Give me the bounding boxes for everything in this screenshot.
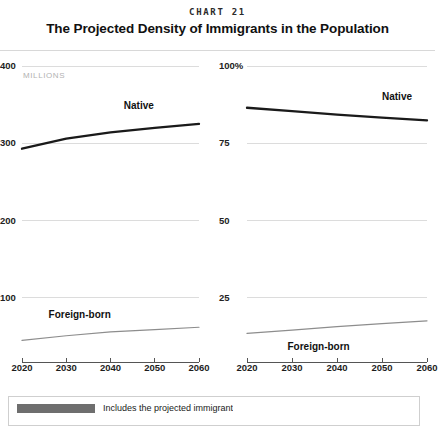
series-label-foreign-born: Foreign-born [49,309,111,320]
x-tick-label: 2030 [281,362,302,373]
x-tick-labels-percent: 20202030204020502060 [219,362,435,380]
legend-box: Includes the projected immigrant [8,396,420,426]
y-tick-label: 75 [219,138,230,148]
y-tick-label: 100% [219,61,243,71]
series-line-foreign-born [22,327,199,340]
chart-number-kicker: CHART 21 [0,6,435,18]
series-line-native [22,124,199,149]
series-label-native: Native [382,91,412,102]
legend-row: Includes the projected immigrant [17,403,411,414]
x-tick-label: 2020 [11,362,32,373]
y-tick-label: 100 [0,293,16,303]
series-label-foreign-born: Foreign-born [288,341,350,352]
x-tick-label: 2030 [56,362,77,373]
series-line-native [247,108,427,121]
legend-swatch [17,404,95,413]
x-tick-label: 2050 [371,362,392,373]
charts-container: MILLIONS 20202030204020502060 1002003004… [0,52,435,392]
chart-panel-millions: MILLIONS 20202030204020502060 1002003004… [0,52,213,392]
gridlines-millions [22,66,199,298]
plot-svg-millions [0,52,213,392]
x-tick-label: 2040 [100,362,121,373]
x-tick-label: 2050 [144,362,165,373]
y-axis-units-label: MILLIONS [23,71,65,80]
x-tick-label: 2060 [416,362,437,373]
y-tick-label: 25 [219,293,230,303]
x-tick-labels-millions: 20202030204020502060 [0,362,213,380]
y-tick-label: 50 [219,216,230,226]
series-label-native: Native [124,100,154,111]
legend-label: Includes the projected immigrant [103,403,233,414]
title-divider [0,50,435,51]
x-tick-label: 2040 [326,362,347,373]
chart-panel-percent: 20202030204020502060 255075100% NativeFo… [219,52,435,392]
plot-area-millions [0,52,213,392]
chart-title: The Projected Density of Immigrants in t… [0,20,435,37]
x-tick-label: 2020 [236,362,257,373]
y-tick-label: 300 [0,138,16,148]
x-tick-label: 2060 [188,362,209,373]
series-line-foreign-born [247,321,427,334]
y-tick-label: 200 [0,216,16,226]
chart-header: CHART 21 The Projected Density of Immigr… [0,0,435,37]
y-tick-label: 400 [0,61,16,71]
